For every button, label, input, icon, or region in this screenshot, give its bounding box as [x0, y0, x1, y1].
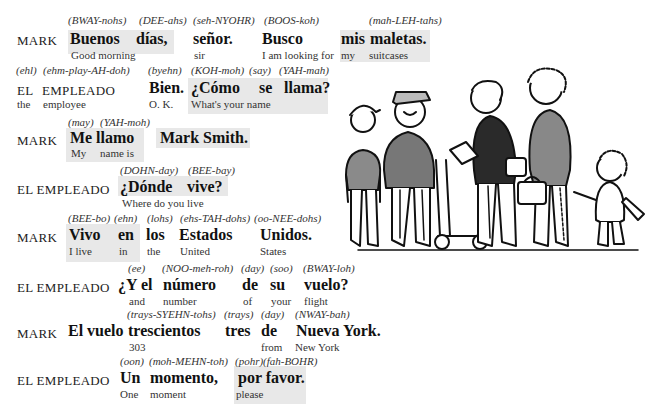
spanish-word: Bien. — [149, 79, 184, 97]
pron: (BOOS-koh) — [264, 14, 319, 26]
pron: (oon) — [120, 355, 144, 367]
spanish-word: llama? — [284, 79, 330, 97]
english-gloss: in — [119, 245, 128, 257]
spanish-word: Unidos. — [260, 226, 312, 244]
pron: (byehn) — [148, 64, 182, 76]
english-gloss: moment — [150, 388, 186, 400]
pron: (ehn) — [114, 212, 137, 224]
spanish-word: Busco — [262, 30, 303, 48]
spanish-word: ¿Y el — [118, 276, 153, 294]
travelers-illustration — [338, 60, 648, 260]
spanish-word: de — [261, 322, 277, 340]
spanish-word: Estados — [179, 226, 232, 244]
english-gloss: number — [163, 295, 197, 307]
pron: (BWAY-loh) — [303, 262, 355, 274]
spanish-word: maletas. — [370, 30, 426, 48]
speaker-label: MARK — [17, 33, 57, 49]
pron: (fah-BOHR) — [263, 355, 317, 367]
pron: (DEE-ahs) — [139, 14, 187, 26]
speaker-label: EMPLEADO — [42, 83, 115, 99]
pron: (YAH-moh) — [100, 116, 150, 128]
pron: (YAH-mah) — [279, 64, 329, 76]
child-figure — [574, 151, 644, 246]
spanish-word: Me — [70, 129, 92, 147]
english-gloss: the — [17, 98, 30, 110]
english-gloss: What's your name — [191, 98, 271, 110]
pron: (trays-SYEHN-tohs) — [127, 308, 216, 320]
pron: (mah-LEH-tahs) — [369, 14, 442, 26]
traveler-man-figure — [450, 81, 526, 246]
spanish-word: se — [259, 79, 272, 97]
english-gloss: Good morning — [71, 49, 135, 61]
pron: (moh-MEHN-toh) — [149, 355, 228, 367]
english-gloss: 303 — [129, 341, 146, 353]
spanish-word: momento, — [150, 369, 218, 387]
english-gloss: and — [129, 295, 145, 307]
english-gloss: sir — [194, 49, 205, 61]
spanish-word: El vuelo — [68, 322, 124, 340]
speaker-label: EL EMPLEADO — [17, 182, 110, 198]
pron: (say) — [249, 64, 271, 76]
pron: (seh-NYOHR) — [193, 14, 255, 26]
porter-figure — [384, 92, 487, 249]
spanish-word: por favor. — [238, 369, 305, 387]
spanish-word: trescientos — [128, 322, 201, 340]
boy-figure — [346, 106, 380, 246]
speaker-label: MARK — [17, 326, 57, 342]
english-gloss: One — [120, 388, 138, 400]
spanish-word: Nueva York. — [296, 322, 381, 340]
english-gloss: from — [261, 341, 282, 353]
english-gloss: your — [271, 295, 291, 307]
pron: (BEE-bo) — [68, 212, 110, 224]
pron: (trays) — [224, 308, 253, 320]
pron: (BWAY-nohs) — [68, 14, 126, 26]
english-gloss: employee — [43, 98, 86, 110]
spanish-word: número — [163, 276, 216, 294]
spanish-word: su — [270, 276, 285, 294]
pron: (oo-NEE-dohs) — [254, 212, 321, 224]
english-gloss: My — [71, 147, 86, 159]
english-gloss: flight — [304, 295, 328, 307]
spanish-word: Buenos — [70, 30, 120, 48]
pron: (lohs) — [147, 212, 173, 224]
pron: (may) — [68, 116, 94, 128]
pron: (pohr) — [235, 355, 263, 367]
speaker-label: MARK — [17, 230, 57, 246]
pron: (ehl) — [16, 64, 37, 76]
pron: (DOHN-day) — [120, 164, 178, 176]
spanish-word: ¿Dónde — [120, 178, 172, 196]
english-gloss: States — [260, 245, 286, 257]
spanish-word: señor. — [193, 30, 233, 48]
spanish-word: vuelo? — [304, 276, 348, 294]
english-gloss: name is — [100, 147, 134, 159]
pron: (NWAY-bah) — [295, 308, 350, 320]
english-gloss: Where do you live — [122, 197, 204, 209]
english-gloss: O. K. — [149, 98, 173, 110]
spanish-word: días, — [136, 30, 168, 48]
pron: (day) — [241, 262, 264, 274]
english-gloss: I am looking for — [262, 49, 334, 61]
traveler-woman-figure — [518, 69, 571, 247]
english-gloss: the — [147, 245, 160, 257]
pron: (NOO-meh-roh) — [162, 262, 233, 274]
spanish-word: Un — [120, 369, 140, 387]
spanish-word: de — [242, 276, 258, 294]
speaker-label: EL — [17, 83, 33, 99]
pron: (KOH-moh) — [191, 64, 244, 76]
pron: (day) — [261, 308, 284, 320]
english-gloss: United — [180, 245, 210, 257]
pron: (soo) — [270, 262, 293, 274]
spanish-word: mis — [341, 30, 365, 48]
pron: (ee) — [128, 262, 145, 274]
spanish-word: en — [118, 226, 134, 244]
spanish-word: los — [146, 226, 165, 244]
spanish-word: Mark Smith. — [160, 129, 248, 147]
spanish-word: tres — [225, 322, 250, 340]
english-gloss: New York — [295, 341, 340, 353]
speaker-label: EL EMPLEADO — [17, 373, 110, 389]
speaker-label: EL EMPLEADO — [17, 280, 110, 296]
english-gloss: I live — [69, 245, 92, 257]
speaker-label: MARK — [17, 133, 57, 149]
english-gloss: of — [243, 295, 252, 307]
spanish-word: vive? — [187, 178, 223, 196]
